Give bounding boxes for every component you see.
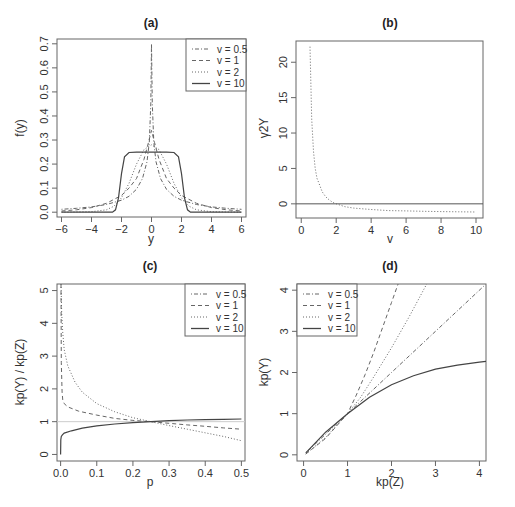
- series-line: [62, 152, 242, 212]
- x-tick-label: 0.3: [161, 467, 176, 479]
- panel-title: (d): [382, 259, 397, 273]
- y-tick-label: 1: [278, 411, 290, 417]
- panel-b: (b)024681005101520vγ2Y: [257, 16, 483, 246]
- x-tick-label: 0.0: [53, 467, 68, 479]
- legend-entry: v = 1: [328, 300, 350, 311]
- legend-entry: v = 10: [328, 323, 356, 334]
- y-tick-label: 0.1: [38, 180, 50, 195]
- legend-entry: v = 1: [217, 55, 239, 66]
- y-tick-label: 0.6: [38, 60, 50, 75]
- y-axis-label: f(y): [13, 119, 27, 136]
- y-tick-label: 4: [38, 320, 50, 326]
- x-tick-label: 4: [368, 224, 374, 236]
- panel-title: (a): [144, 16, 159, 30]
- panel-title: (c): [143, 259, 158, 273]
- y-tick-label: 2: [278, 369, 290, 375]
- x-tick-label: 1: [344, 467, 350, 479]
- x-tick-label: 2: [178, 223, 184, 235]
- y-tick-label: 20: [277, 56, 289, 68]
- legend-entry: v = 0.5: [328, 289, 359, 300]
- x-tick-label: 6: [403, 224, 409, 236]
- plot-frame: [296, 41, 483, 218]
- y-tick-label: 15: [277, 92, 289, 104]
- y-tick-label: 3: [278, 328, 290, 334]
- series-line: [62, 145, 242, 212]
- y-tick-label: 5: [277, 165, 289, 171]
- x-tick-label: −2: [115, 223, 128, 235]
- legend-entry: v = 2: [217, 67, 239, 78]
- y-tick-label: 5: [38, 287, 50, 293]
- y-tick-label: 3: [38, 353, 50, 359]
- y-tick-label: 0: [277, 201, 289, 207]
- legend: v = 0.5v = 1v = 2v = 10: [297, 284, 359, 336]
- series-line: [62, 130, 242, 211]
- legend-entry: v = 0.5: [216, 289, 247, 300]
- x-axis-label: y: [148, 232, 154, 246]
- x-axis-label: v: [387, 232, 393, 246]
- y-tick-label: 10: [277, 127, 289, 139]
- x-tick-label: 0.4: [198, 467, 213, 479]
- y-tick-label: 0.5: [38, 84, 50, 99]
- legend-entry: v = 2: [216, 312, 238, 323]
- y-tick-label: 0.0: [38, 205, 50, 220]
- figure: (a)−6−4−202460.00.10.20.30.40.50.60.7yf(…: [0, 0, 515, 507]
- panel-a: (a)−6−4−202460.00.10.20.30.40.50.60.7yf(…: [13, 16, 248, 246]
- y-axis-label: γ2Y: [257, 118, 271, 139]
- legend-entry: v = 10: [216, 323, 244, 334]
- x-tick-label: 2: [333, 224, 339, 236]
- x-tick-label: −4: [85, 223, 98, 235]
- x-tick-label: 0.5: [234, 467, 249, 479]
- x-tick-label: 0: [298, 224, 304, 236]
- series-line: [310, 47, 476, 212]
- legend: v = 0.5v = 1v = 2v = 10: [185, 284, 247, 336]
- legend-entry: v = 1: [216, 300, 238, 311]
- y-tick-label: 0.2: [38, 156, 50, 171]
- y-axis-label: kp(Y) / kp(Z): [13, 339, 27, 406]
- x-tick-label: 10: [470, 224, 482, 236]
- y-tick-label: 2: [38, 386, 50, 392]
- x-tick-label: 3: [432, 467, 438, 479]
- y-tick-label: 0.4: [38, 108, 50, 123]
- legend-entry: v = 10: [217, 78, 245, 89]
- y-tick-label: 0: [278, 452, 290, 458]
- legend-entry: v = 2: [328, 312, 350, 323]
- series-line: [61, 419, 242, 454]
- y-tick-label: 0.3: [38, 132, 50, 147]
- x-tick-label: 8: [438, 224, 444, 236]
- y-axis-label: kp(Y): [257, 358, 271, 387]
- legend-entry: v = 0.5: [217, 44, 248, 55]
- y-tick-label: 4: [278, 287, 290, 293]
- x-tick-label: −6: [55, 223, 68, 235]
- x-tick-label: 6: [238, 223, 244, 235]
- x-tick-label: 4: [476, 467, 482, 479]
- x-tick-label: 0.2: [125, 467, 140, 479]
- y-tick-label: 1: [38, 419, 50, 425]
- series-line: [306, 361, 486, 452]
- x-axis-label: kp(Z): [376, 475, 404, 489]
- y-tick-label: 0.7: [38, 36, 50, 51]
- y-tick-label: 0: [38, 451, 50, 457]
- legend: v = 0.5v = 1v = 2v = 10: [186, 39, 248, 91]
- panel-c: (c)0.00.10.20.30.40.5012345pkp(Y) / kp(Z…: [13, 259, 249, 489]
- x-axis-label: p: [147, 475, 154, 489]
- panel-d: (d)0123401234kp(Z)kp(Y)v = 0.5v = 1v = 2…: [257, 259, 486, 489]
- x-tick-label: 4: [208, 223, 214, 235]
- x-tick-label: 0.1: [89, 467, 104, 479]
- panel-title: (b): [382, 16, 397, 30]
- x-tick-label: 0: [301, 467, 307, 479]
